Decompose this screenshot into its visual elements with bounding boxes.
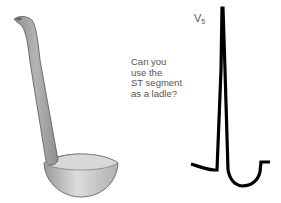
ladle-handle: [14, 16, 58, 165]
caption-line: Can you: [131, 57, 201, 68]
illustration: [0, 0, 281, 203]
caption-line: as a ladle?: [131, 89, 201, 100]
lead-number: 5: [201, 18, 205, 25]
ecg-trace: [191, 8, 270, 186]
figure: [0, 0, 281, 203]
ladle-icon: [14, 16, 118, 197]
caption: Can you use the ST segment as a ladle?: [131, 57, 201, 99]
ecg-lead-label: V5: [194, 12, 205, 25]
ladle-hole: [16, 18, 22, 21]
